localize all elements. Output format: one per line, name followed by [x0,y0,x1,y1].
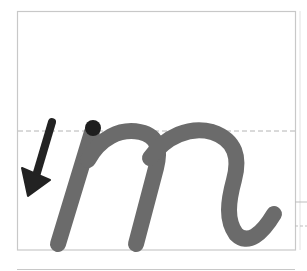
letter-m-glyph [58,130,274,244]
stroke-direction-arrow-icon [22,122,52,196]
start-dot [85,120,101,136]
letter-tracing-canvas [0,0,307,271]
handwriting-worksheet [0,0,307,271]
